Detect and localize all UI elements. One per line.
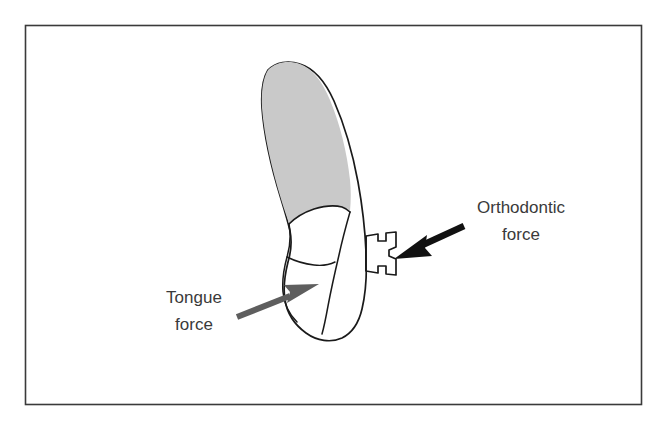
- tongue-force-label-line1: Tongue: [166, 288, 222, 307]
- orthodontic-force-label-line2: force: [502, 225, 540, 244]
- orthodontic-force-label-line1: Orthodontic: [477, 198, 565, 217]
- tooth-force-diagram: Orthodontic force Tongue force: [0, 0, 667, 426]
- tongue-force-label-line2: force: [175, 315, 213, 334]
- figure-root: Orthodontic force Tongue force: [0, 0, 667, 426]
